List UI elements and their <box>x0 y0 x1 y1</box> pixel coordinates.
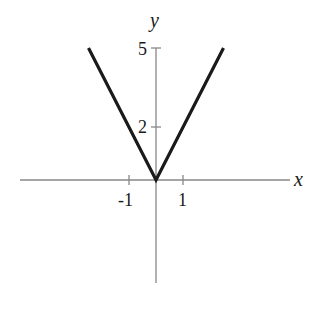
x-tick-label-1: 1 <box>178 190 187 210</box>
y-axis-label: y <box>148 9 159 32</box>
y-tick-label-2: 2 <box>138 117 147 137</box>
y-tick-label-5: 5 <box>138 39 147 59</box>
graph-canvas: -1 1 2 5 x y <box>0 0 316 309</box>
x-tick-label-neg1: -1 <box>118 190 133 210</box>
x-axis-label: x <box>293 168 303 190</box>
